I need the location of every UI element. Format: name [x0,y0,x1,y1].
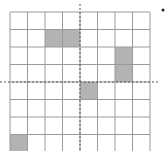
marker-dot [162,9,165,12]
grid-diagram [0,0,165,151]
shaded-cell [10,135,28,152]
corner-marker [162,9,165,12]
shaded-cell [115,47,133,65]
shaded-cell [45,30,63,48]
dashed-axes [0,4,158,151]
shaded-cells [10,30,133,152]
shaded-cell [115,65,133,83]
shaded-cell [63,30,81,48]
shaded-cell [80,82,98,100]
